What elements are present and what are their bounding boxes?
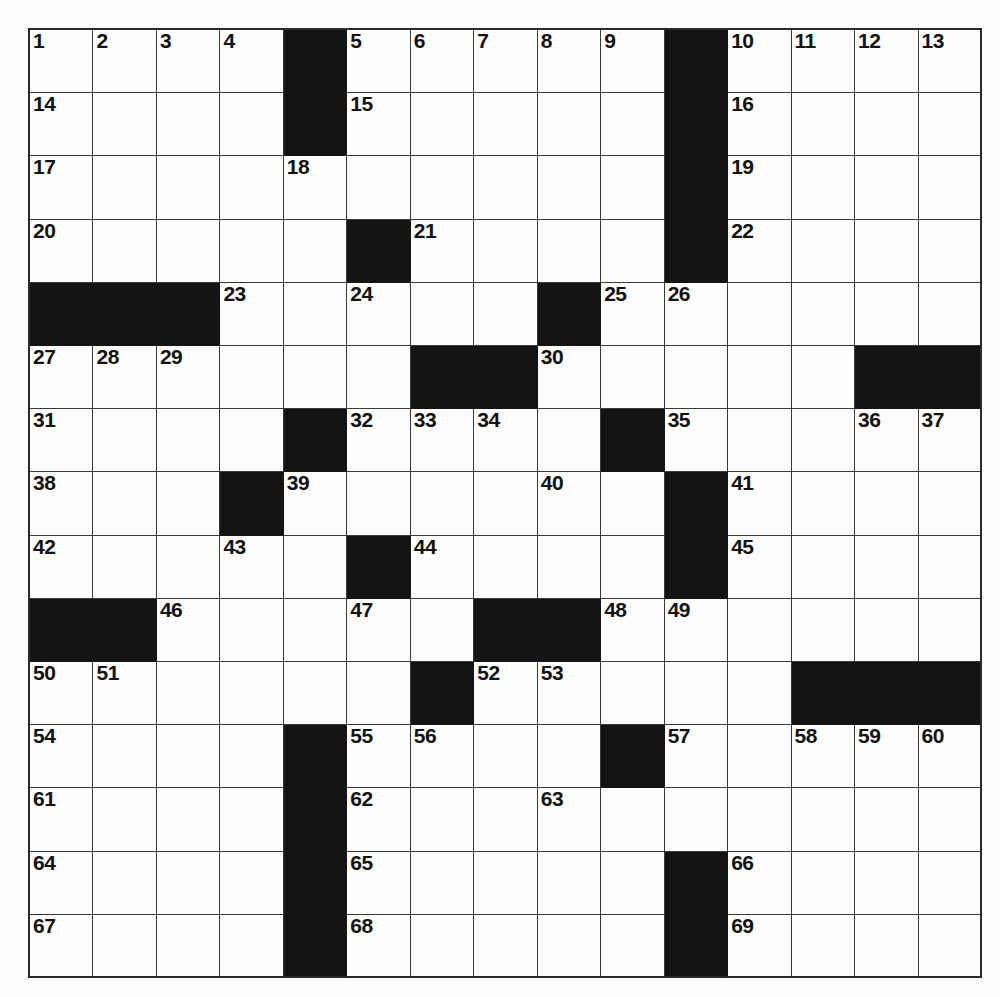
grid-cell-open[interactable] (855, 915, 918, 978)
grid-cell-open[interactable] (728, 662, 791, 725)
grid-cell-open[interactable]: 64 (30, 852, 93, 915)
grid-cell-open[interactable]: 24 (347, 283, 410, 346)
grid-cell-open[interactable] (93, 915, 156, 978)
grid-cell-open[interactable]: 2 (93, 30, 156, 93)
grid-cell-open[interactable] (474, 93, 537, 156)
grid-cell-open[interactable]: 9 (601, 30, 664, 93)
grid-cell-open[interactable] (157, 915, 220, 978)
grid-cell-open[interactable] (93, 788, 156, 851)
grid-cell-open[interactable] (919, 220, 982, 283)
grid-cell-open[interactable] (919, 536, 982, 599)
grid-cell-open[interactable] (474, 852, 537, 915)
grid-cell-open[interactable]: 23 (220, 283, 283, 346)
grid-cell-open[interactable]: 56 (411, 725, 474, 788)
grid-cell-open[interactable] (792, 409, 855, 472)
grid-cell-open[interactable] (93, 93, 156, 156)
grid-cell-open[interactable]: 39 (284, 472, 347, 535)
grid-cell-open[interactable] (792, 346, 855, 409)
grid-cell-open[interactable] (601, 662, 664, 725)
grid-cell-open[interactable] (93, 409, 156, 472)
grid-cell-open[interactable] (855, 93, 918, 156)
grid-cell-open[interactable]: 31 (30, 409, 93, 472)
grid-cell-open[interactable] (284, 220, 347, 283)
grid-cell-open[interactable]: 45 (728, 536, 791, 599)
grid-cell-open[interactable]: 30 (538, 346, 601, 409)
grid-cell-open[interactable] (538, 93, 601, 156)
grid-cell-open[interactable] (855, 220, 918, 283)
grid-cell-open[interactable]: 11 (792, 30, 855, 93)
grid-cell-open[interactable]: 20 (30, 220, 93, 283)
grid-cell-open[interactable] (601, 220, 664, 283)
grid-cell-open[interactable] (792, 599, 855, 662)
grid-cell-open[interactable]: 51 (93, 662, 156, 725)
grid-cell-open[interactable]: 44 (411, 536, 474, 599)
grid-cell-open[interactable] (601, 915, 664, 978)
grid-cell-open[interactable]: 32 (347, 409, 410, 472)
grid-cell-open[interactable] (93, 220, 156, 283)
grid-cell-open[interactable] (157, 472, 220, 535)
grid-cell-open[interactable]: 66 (728, 852, 791, 915)
grid-cell-open[interactable]: 40 (538, 472, 601, 535)
grid-cell-open[interactable] (601, 472, 664, 535)
grid-cell-open[interactable] (347, 156, 410, 219)
grid-cell-open[interactable]: 3 (157, 30, 220, 93)
grid-cell-open[interactable] (665, 662, 728, 725)
grid-cell-open[interactable]: 28 (93, 346, 156, 409)
grid-cell-open[interactable]: 17 (30, 156, 93, 219)
grid-cell-open[interactable]: 13 (919, 30, 982, 93)
grid-cell-open[interactable] (157, 409, 220, 472)
grid-cell-open[interactable] (411, 788, 474, 851)
grid-cell-open[interactable]: 62 (347, 788, 410, 851)
grid-cell-open[interactable]: 22 (728, 220, 791, 283)
grid-cell-open[interactable]: 7 (474, 30, 537, 93)
grid-cell-open[interactable] (220, 852, 283, 915)
grid-cell-open[interactable]: 12 (855, 30, 918, 93)
grid-cell-open[interactable] (474, 915, 537, 978)
grid-cell-open[interactable]: 21 (411, 220, 474, 283)
grid-cell-open[interactable] (220, 662, 283, 725)
grid-cell-open[interactable] (728, 409, 791, 472)
grid-cell-open[interactable]: 67 (30, 915, 93, 978)
grid-cell-open[interactable] (93, 725, 156, 788)
grid-cell-open[interactable]: 19 (728, 156, 791, 219)
grid-cell-open[interactable] (538, 915, 601, 978)
grid-cell-open[interactable] (601, 788, 664, 851)
grid-cell-open[interactable]: 15 (347, 93, 410, 156)
grid-cell-open[interactable] (474, 220, 537, 283)
grid-cell-open[interactable]: 18 (284, 156, 347, 219)
grid-cell-open[interactable]: 43 (220, 536, 283, 599)
grid-cell-open[interactable]: 34 (474, 409, 537, 472)
grid-cell-open[interactable] (538, 156, 601, 219)
grid-cell-open[interactable] (919, 852, 982, 915)
grid-cell-open[interactable]: 49 (665, 599, 728, 662)
grid-cell-open[interactable]: 60 (919, 725, 982, 788)
grid-cell-open[interactable]: 57 (665, 725, 728, 788)
grid-cell-open[interactable] (792, 852, 855, 915)
grid-cell-open[interactable] (411, 599, 474, 662)
grid-cell-open[interactable] (411, 156, 474, 219)
grid-cell-open[interactable] (855, 599, 918, 662)
grid-cell-open[interactable]: 61 (30, 788, 93, 851)
grid-cell-open[interactable] (728, 788, 791, 851)
grid-cell-open[interactable] (474, 725, 537, 788)
grid-cell-open[interactable] (855, 156, 918, 219)
grid-cell-open[interactable] (919, 283, 982, 346)
grid-cell-open[interactable]: 48 (601, 599, 664, 662)
grid-cell-open[interactable]: 68 (347, 915, 410, 978)
grid-cell-open[interactable] (157, 662, 220, 725)
grid-cell-open[interactable] (601, 852, 664, 915)
grid-cell-open[interactable] (93, 156, 156, 219)
grid-cell-open[interactable]: 25 (601, 283, 664, 346)
grid-cell-open[interactable]: 8 (538, 30, 601, 93)
grid-cell-open[interactable]: 16 (728, 93, 791, 156)
grid-cell-open[interactable]: 69 (728, 915, 791, 978)
grid-cell-open[interactable]: 1 (30, 30, 93, 93)
grid-cell-open[interactable]: 37 (919, 409, 982, 472)
grid-cell-open[interactable] (792, 536, 855, 599)
grid-cell-open[interactable] (411, 472, 474, 535)
grid-cell-open[interactable] (93, 472, 156, 535)
grid-cell-open[interactable] (919, 156, 982, 219)
grid-cell-open[interactable]: 5 (347, 30, 410, 93)
grid-cell-open[interactable] (792, 156, 855, 219)
grid-cell-open[interactable] (284, 346, 347, 409)
